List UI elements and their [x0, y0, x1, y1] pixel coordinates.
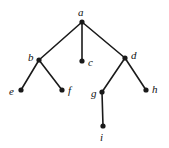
tree-edge-a-b — [39, 22, 82, 60]
tree-edge-d-g — [102, 58, 125, 92]
tree-node-label-h: h — [152, 84, 158, 95]
tree-node-i — [100, 123, 105, 128]
tree-node-d — [122, 55, 127, 60]
tree-node-c — [79, 58, 84, 63]
tree-edge-b-e — [21, 60, 39, 90]
tree-diagram-figure: abcdefghi — [0, 0, 169, 148]
tree-node-g — [99, 89, 104, 94]
tree-edge-d-h — [125, 58, 146, 90]
tree-node-e — [18, 87, 23, 92]
tree-edge-g-i — [102, 92, 103, 126]
edge-layer — [21, 22, 146, 126]
tree-node-label-f: f — [68, 85, 71, 96]
tree-edge-b-f — [39, 60, 62, 90]
tree-node-label-d: d — [131, 50, 137, 61]
node-layer — [18, 19, 148, 128]
tree-node-a — [79, 19, 84, 24]
tree-node-label-c: c — [88, 57, 93, 68]
tree-node-label-i: i — [100, 132, 103, 143]
tree-node-b — [36, 57, 41, 62]
tree-node-f — [59, 87, 64, 92]
tree-node-label-b: b — [28, 52, 34, 63]
tree-graphics — [0, 0, 169, 148]
tree-edge-a-d — [82, 22, 125, 58]
tree-node-label-g: g — [91, 88, 97, 99]
tree-node-h — [143, 87, 148, 92]
tree-node-label-a: a — [78, 7, 84, 18]
tree-node-label-e: e — [9, 86, 14, 97]
